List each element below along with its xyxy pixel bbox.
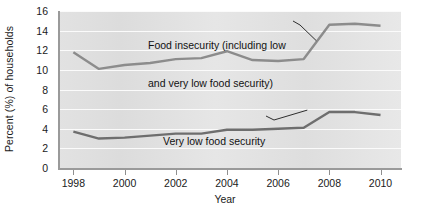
upper-annotation-leader-line (293, 21, 316, 41)
upper-series-annotation: Food insecurity (including low and very … (148, 14, 286, 114)
upper-series-annotation-line-1: Food insecurity (including low (148, 39, 286, 52)
upper-series-annotation-line-2: and very low food security) (148, 77, 286, 90)
food-insecurity-line-chart: Percent (%) of households 1614121086420 … (0, 0, 422, 212)
lower-series-annotation: Very low food security (163, 110, 265, 173)
lower-series-annotation-line-1: Very low food security (163, 135, 265, 148)
